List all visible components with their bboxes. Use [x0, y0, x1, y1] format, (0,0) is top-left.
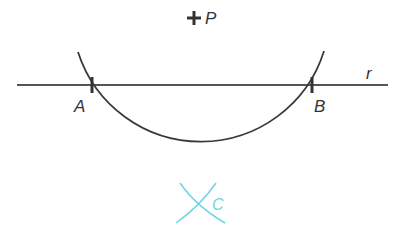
label-a: A — [73, 97, 85, 116]
construction-arc-c2 — [176, 183, 216, 223]
label-r: r — [366, 64, 373, 83]
point-p-marker — [187, 11, 201, 25]
label-b: B — [314, 97, 325, 116]
label-c: C — [212, 196, 224, 213]
label-p: P — [205, 9, 217, 28]
construction-diagram: P r A B C — [0, 0, 403, 240]
arc-centered-p — [78, 51, 324, 142]
